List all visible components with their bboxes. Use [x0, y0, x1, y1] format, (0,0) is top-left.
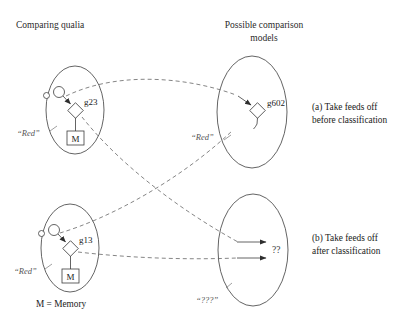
- memory-box-label-a: M: [71, 134, 79, 144]
- header-right-line1: Possible comparison: [225, 20, 304, 30]
- feed-curve-a-cross-down: [82, 117, 238, 242]
- caption-b-line1: (b) Take feeds off: [312, 233, 379, 244]
- classifier-label-a-target: g602: [267, 98, 285, 108]
- feed-curve-a-top: [66, 79, 236, 96]
- header-left: Comparing qualia: [16, 20, 85, 30]
- memory-box-label-b: M: [66, 272, 74, 282]
- caption-a-line1: (a) Take feeds off: [312, 102, 378, 113]
- percept-node-circle-a: [54, 87, 65, 98]
- percept-to-classifier-arrow-b: [58, 234, 66, 242]
- classifier-stem-a-target: [254, 118, 258, 129]
- qualia-label-a-target: “Red”: [191, 132, 214, 142]
- classifier-diamond-a-target: [250, 103, 266, 119]
- percept-to-classifier-arrow-a: [63, 96, 71, 104]
- qualia-label-b-source: “Red”: [14, 266, 37, 276]
- classifier-diamond-a: [68, 103, 84, 119]
- figure-canvas: Comparing qualia Possible comparison mod…: [0, 0, 408, 330]
- boundary-tick-b: [45, 264, 52, 269]
- row-a-target-group: g602 “Red”: [191, 56, 287, 168]
- row-a-source-group: g23 M “Red”: [17, 66, 104, 154]
- caption-a-line2: before classification: [312, 115, 387, 125]
- legend-memory: M = Memory: [36, 299, 87, 309]
- caption-b-line2: after classification: [312, 246, 381, 256]
- boundary-tick-b-target: [226, 283, 232, 288]
- unknown-node-label-b: ??: [272, 245, 280, 255]
- qualia-label-a-source: “Red”: [17, 128, 40, 138]
- boundary-tick-a: [50, 126, 57, 131]
- qualia-comparison-diagram: Comparing qualia Possible comparison mod…: [0, 0, 408, 330]
- percept-node-circle-b: [49, 225, 60, 236]
- input-node-circle-b: [39, 231, 45, 237]
- row-b-source-group: g13 M “Red”: [14, 204, 99, 292]
- qualia-label-b-target: “???”: [196, 295, 218, 305]
- input-node-circle-a: [44, 93, 50, 99]
- classifier-diamond-b: [63, 241, 79, 257]
- incoming-arrow-a: [238, 96, 251, 105]
- row-b-target-group: ?? “???”: [196, 194, 288, 306]
- feed-curve-b-flat: [78, 252, 237, 259]
- header-right-line2: models: [250, 33, 278, 43]
- classifier-label-b: g13: [79, 235, 93, 245]
- classifier-label-a: g23: [84, 97, 98, 107]
- feed-curve-b-cross-up: [60, 131, 232, 233]
